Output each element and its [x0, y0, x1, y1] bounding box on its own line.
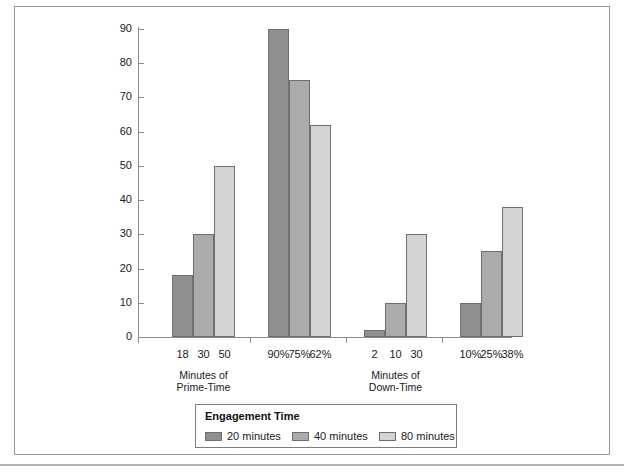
bar [268, 29, 289, 337]
x-axis-group-label: Minutes of Prime-Time [154, 369, 253, 393]
legend-swatch [205, 432, 222, 441]
legend-label: 40 minutes [314, 430, 368, 442]
y-axis-tick [138, 234, 144, 235]
y-axis-tick-label: 80 [92, 57, 132, 68]
x-axis-tick [442, 337, 443, 343]
bar-chart: 0102030405060708090 18305090%75%62%21030… [15, 7, 611, 456]
y-axis-tick-label: 0 [92, 331, 132, 342]
y-axis-tick-label: 40 [92, 194, 132, 205]
y-axis-tick [138, 303, 144, 304]
page-bottom-rule [0, 464, 624, 466]
legend-entry: 40 minutes [292, 429, 368, 443]
chart-legend: Engagement Time 20 minutes40 minutes80 m… [195, 404, 457, 448]
legend-entry: 20 minutes [205, 429, 281, 443]
legend-label: 20 minutes [227, 430, 281, 442]
bar [385, 303, 406, 337]
legend-title: Engagement Time [205, 410, 300, 423]
bar [460, 303, 481, 337]
x-axis-category-label: 38% [498, 348, 527, 360]
legend-label: 80 minutes [401, 430, 455, 442]
y-axis-tick [138, 132, 144, 133]
x-axis-category-label: 50 [210, 348, 239, 360]
x-axis-tick [346, 337, 347, 343]
y-axis-line [138, 27, 139, 339]
bar [310, 125, 331, 337]
y-axis-tick [138, 63, 144, 64]
y-axis-tick [138, 29, 144, 30]
y-axis-tick-label: 50 [92, 160, 132, 171]
bar [406, 234, 427, 337]
y-axis-tick-label: 10 [92, 297, 132, 308]
x-axis-category-label: 62% [306, 348, 335, 360]
bar [214, 166, 235, 337]
y-axis-tick [138, 166, 144, 167]
x-axis-group-label: Minutes of Down-Time [346, 369, 445, 393]
legend-entry: 80 minutes [379, 429, 455, 443]
figure-frame: 0102030405060708090 18305090%75%62%21030… [14, 6, 610, 455]
bar [481, 251, 502, 337]
legend-swatch [379, 432, 396, 441]
y-axis-tick [138, 200, 144, 201]
y-axis-tick-label: 90 [92, 23, 132, 34]
y-axis-tick [138, 97, 144, 98]
x-axis-line [138, 337, 512, 338]
y-axis-tick [138, 269, 144, 270]
x-axis-tick [250, 337, 251, 343]
y-axis-tick-label: 30 [92, 228, 132, 239]
bar [364, 330, 385, 337]
bar [172, 275, 193, 337]
x-axis-tick [138, 337, 139, 343]
bar [193, 234, 214, 337]
bar [502, 207, 523, 337]
y-axis-tick-label: 60 [92, 126, 132, 137]
y-axis-tick-label: 20 [92, 263, 132, 274]
x-axis-category-label: 30 [402, 348, 431, 360]
legend-swatch [292, 432, 309, 441]
bar [289, 80, 310, 337]
y-axis-tick-label: 70 [92, 91, 132, 102]
